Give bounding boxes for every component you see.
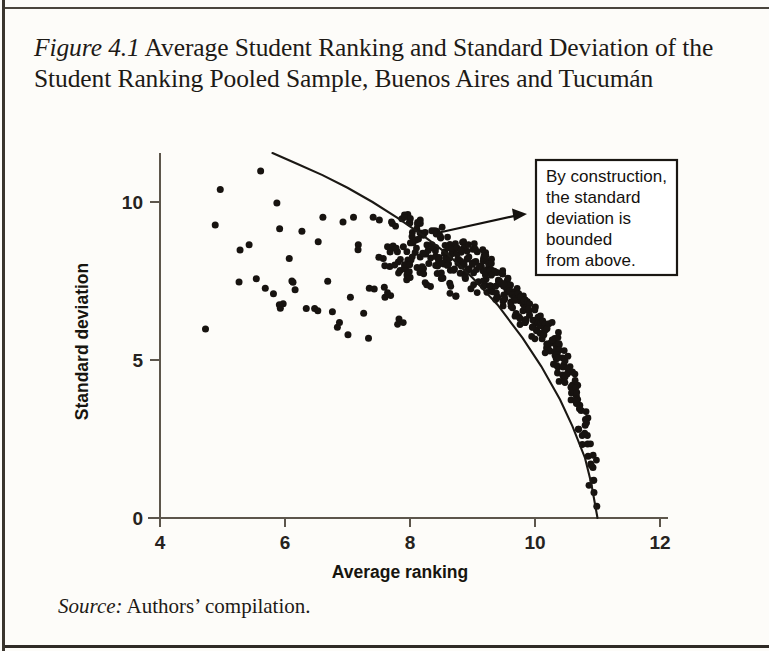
data-point <box>439 224 446 231</box>
data-point <box>401 214 408 221</box>
data-point <box>583 408 590 415</box>
data-point <box>561 347 568 354</box>
figure-page: Figure 4.1 Average Student Ranking and S… <box>0 0 769 651</box>
source-label: Source: <box>58 594 123 618</box>
data-point <box>472 246 479 253</box>
data-point <box>555 354 562 361</box>
data-point <box>212 222 219 229</box>
data-point <box>531 335 538 342</box>
data-point <box>409 253 416 260</box>
x-tick-label-4: 4 <box>155 532 166 553</box>
annotation-line: the standard <box>546 188 641 207</box>
data-point <box>365 335 372 342</box>
data-point <box>273 199 280 206</box>
data-point <box>384 289 391 296</box>
data-point <box>469 261 476 268</box>
data-point <box>360 310 367 317</box>
data-point <box>466 254 473 261</box>
data-point <box>217 186 224 193</box>
data-point <box>419 263 426 270</box>
data-point <box>465 241 472 248</box>
data-point <box>392 223 399 230</box>
data-point <box>350 214 357 221</box>
y-tick-label-0: 0 <box>132 508 143 529</box>
data-point <box>573 389 580 396</box>
y-tick-label-10: 10 <box>122 192 143 213</box>
data-point <box>583 419 590 426</box>
data-point <box>482 252 489 259</box>
data-point <box>329 308 336 315</box>
x-tick-label-10: 10 <box>524 532 545 553</box>
data-point <box>584 432 591 439</box>
data-point <box>257 168 264 175</box>
data-point <box>549 337 556 344</box>
data-point <box>453 293 460 300</box>
data-point <box>458 247 465 254</box>
data-point <box>370 214 377 221</box>
data-point <box>587 440 594 447</box>
data-point <box>380 255 387 262</box>
data-point <box>324 278 331 285</box>
data-point <box>376 216 383 223</box>
x-tick-label-8: 8 <box>405 532 416 553</box>
data-point <box>499 267 506 274</box>
data-point <box>593 457 600 464</box>
data-point <box>508 303 515 310</box>
data-point <box>450 267 457 274</box>
data-point <box>202 325 209 332</box>
data-point <box>403 248 410 255</box>
data-point <box>576 405 583 412</box>
data-point <box>488 260 495 267</box>
data-point <box>381 262 388 269</box>
data-point <box>340 218 347 225</box>
data-point <box>555 329 562 336</box>
data-point <box>447 290 454 297</box>
data-point <box>262 285 269 292</box>
data-point <box>505 275 512 282</box>
annotation-line: deviation is <box>546 209 631 228</box>
data-point <box>575 426 582 433</box>
data-point <box>319 214 326 221</box>
annotation-line: from above. <box>546 251 636 270</box>
annotation-line: By construction, <box>546 167 667 186</box>
source-text: Authors’ compilation. <box>123 594 311 618</box>
annotation-line: bounded <box>546 230 612 249</box>
data-point <box>476 263 483 270</box>
page-border-top <box>5 7 769 9</box>
data-point <box>501 281 508 288</box>
data-point <box>562 374 569 381</box>
data-point <box>474 289 481 296</box>
data-point <box>371 285 378 292</box>
annotation-arrow-head <box>512 209 527 222</box>
data-point <box>237 246 244 253</box>
data-point <box>407 274 414 281</box>
data-point <box>286 255 293 262</box>
data-point <box>419 250 426 257</box>
data-point <box>488 272 495 279</box>
data-point <box>236 279 243 286</box>
data-point <box>276 225 283 232</box>
data-point <box>394 321 401 328</box>
data-point <box>292 286 299 293</box>
data-point <box>314 307 321 314</box>
data-point <box>572 371 579 378</box>
page-border-bottom <box>5 645 769 648</box>
data-point <box>395 270 402 277</box>
data-point <box>290 279 297 286</box>
data-point <box>447 283 454 290</box>
data-point <box>280 300 287 307</box>
data-point <box>438 275 445 282</box>
y-axis-title: Standard deviation <box>72 263 92 421</box>
y-tick-label-5: 5 <box>132 350 143 371</box>
data-point <box>588 462 595 469</box>
x-tick-label-6: 6 <box>280 532 291 553</box>
data-point <box>542 349 549 356</box>
data-point <box>406 261 413 268</box>
data-point <box>553 362 560 369</box>
data-point <box>572 397 579 404</box>
data-point <box>393 245 400 252</box>
data-point <box>355 246 362 253</box>
data-point <box>531 307 538 314</box>
data-point <box>549 319 556 326</box>
data-point <box>565 353 572 360</box>
